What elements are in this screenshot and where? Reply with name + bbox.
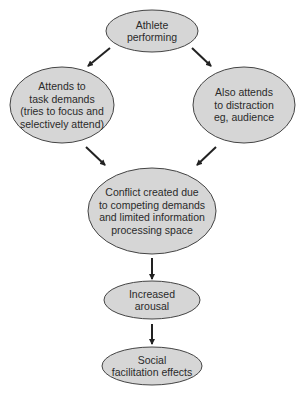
node-label-line: selectively attend) bbox=[20, 118, 104, 131]
node-arousal-label: Increasedarousal bbox=[104, 281, 200, 319]
node-label-line: performing bbox=[127, 31, 177, 44]
node-social-label: Socialfacilitation effects bbox=[102, 347, 202, 385]
node-conflict-label: Conflict created dueto competing demands… bbox=[88, 168, 216, 254]
node-label-line: (tries to focus and bbox=[20, 105, 103, 118]
node-label-line: facilitation effects bbox=[112, 366, 192, 379]
node-label-line: Also attends bbox=[215, 86, 273, 99]
node-label-line: and limited information bbox=[99, 211, 205, 224]
node-label-line: Athlete bbox=[136, 19, 169, 32]
node-label-line: eg, audience bbox=[214, 111, 274, 124]
node-label-line: task demands bbox=[29, 93, 94, 106]
node-label-line: Social bbox=[138, 354, 167, 367]
node-label-line: arousal bbox=[135, 300, 169, 313]
node-label-line: Attends to bbox=[38, 80, 85, 93]
node-label-line: processing space bbox=[111, 224, 193, 237]
node-task-label: Attends totask demands(tries to focus an… bbox=[10, 67, 114, 143]
node-label-line: to competing demands bbox=[99, 199, 205, 212]
node-distraction-label: Also attendsto distractioneg, audience bbox=[193, 67, 295, 143]
node-label-line: Conflict created due bbox=[105, 186, 198, 199]
node-athlete-label: Athleteperforming bbox=[106, 10, 198, 52]
node-label-line: to distraction bbox=[214, 99, 274, 112]
arrow-task-to-conflict-icon bbox=[86, 147, 105, 165]
arrow-distraction-to-conflict-icon bbox=[197, 147, 216, 165]
node-label-line: Increased bbox=[129, 288, 175, 301]
